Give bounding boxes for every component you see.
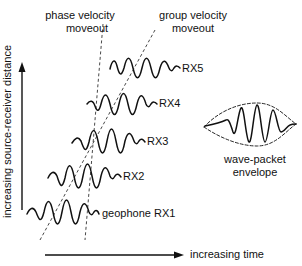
wave-trace-rx2 [48,164,121,188]
receiver-label-rx5: RX5 [182,62,203,75]
x-axis-label: increasing time [190,248,264,261]
wave-trace-rx5 [110,58,180,78]
envelope-label-line1: wave-packet [215,153,295,166]
x-axis-arrow [45,252,184,259]
wave-trace-rx1 [27,200,99,224]
phase-velocity-label: phase velocity moveout [40,9,120,35]
wave-trace-rx3 [72,129,145,153]
receiver-label-rx1: geophone RX1 [102,207,175,220]
group-velocity-label-line1: group velocity [152,9,234,22]
wave-trace-rx4 [87,94,157,115]
group-velocity-label-line2: moveout [152,22,234,35]
wave-packet-illustration [204,103,296,146]
phase-velocity-label-line1: phase velocity [40,9,120,22]
group-velocity-label: group velocity moveout [152,9,234,35]
envelope-label: wave-packet envelope [215,153,295,179]
receiver-label-rx3: RX3 [147,135,168,148]
envelope-label-line2: envelope [215,166,295,179]
receiver-label-rx2: RX2 [123,170,144,183]
receiver-label-rx4: RX4 [159,97,180,110]
y-axis-label: increasing source-receiver distance [1,45,13,218]
diagram-canvas [0,0,302,266]
phase-velocity-label-line2: moveout [40,22,120,35]
y-axis-arrow [19,62,26,210]
